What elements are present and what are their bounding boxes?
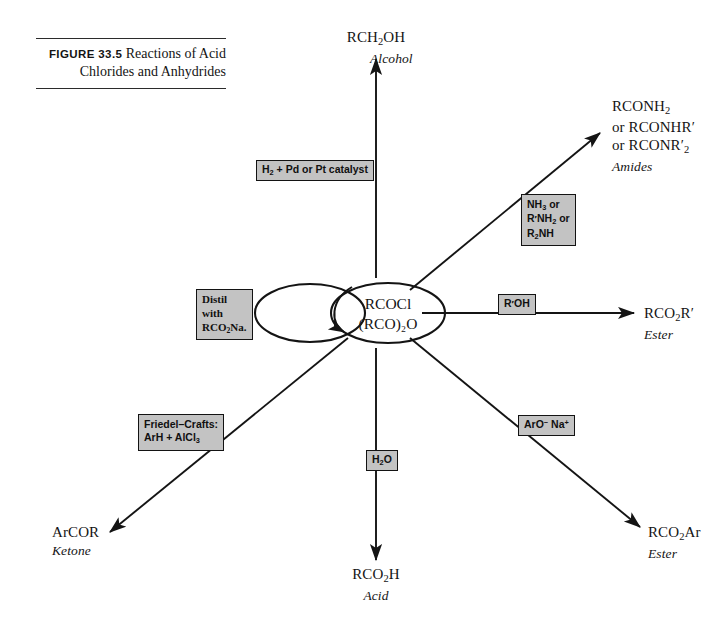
figure-label: FIGURE 33.5 [49,48,122,60]
reagent-distil-line1: Distil [202,292,247,306]
product-ketone-formula: ArCOR [52,524,99,540]
figure-canvas: FIGURE 33.5 Reactions of Acid Chlorides … [0,0,704,643]
product-amides-class: Amides [612,159,695,175]
reagent-distil-line3: RCO2Na. [202,320,247,336]
product-ester-aryl-formula: RCO2Ar [648,524,701,540]
reagent-phenoxide: ArO− Na+ [518,415,575,436]
product-amides-line1: RCONH2 [612,98,670,114]
product-ketone-class: Ketone [52,543,99,559]
reagent-hydrogenation-text: H2 + Pd or Pt catalyst [262,163,368,175]
reagent-alcoholysis-text: R′OH [504,297,530,309]
reagent-friedel-crafts-line1: Friedel–Crafts: [144,418,218,431]
reagent-distil-line2: with [202,306,247,320]
hub-formulas: RCOCl (RCO)₂O [338,294,438,334]
product-ester-alkyl-formula: RCO2R′ [644,305,694,321]
reagent-alcoholysis: R′OH [498,294,536,315]
product-ester-alkyl: RCO2R′ Ester [644,304,694,343]
product-alcohol-class: Alcohol [316,51,436,67]
product-ketone: ArCOR Ketone [52,523,99,560]
product-ester-aryl-class: Ester [648,546,701,562]
product-amides: RCONH2 or RCONHR′ or RCONR′2 Amides [612,97,695,175]
reagent-distil: Distil with RCO2Na. [196,289,253,340]
reagent-amination-line3: R2NH [527,227,570,241]
product-acid-formula: RCO2H [352,566,399,582]
figure-caption: FIGURE 33.5 Reactions of Acid Chlorides … [36,38,226,89]
reagent-hydrogenation: H2 + Pd or Pt catalyst [256,160,374,181]
product-alcohol: RCH2OH Alcohol [316,28,436,67]
product-ester-aryl: RCO2Ar Ester [648,523,701,562]
product-alcohol-formula: RCH2OH [347,29,405,45]
product-ester-alkyl-class: Ester [644,327,694,343]
hub-formula-acid-chloride: RCOCl [338,294,438,314]
reagent-amination: NH3 or R′NH2 or R2NH [521,194,576,246]
reagent-phenoxide-text: ArO− Na+ [524,418,569,430]
reagent-hydrolysis: H2O [366,450,398,471]
product-acid: RCO2H Acid [326,565,426,604]
product-amides-line2: or RCONHR′ [612,119,695,135]
reagent-friedel-crafts-line2: ArH + AlCl3 [144,431,218,445]
hub-formula-anhydride: (RCO)₂O [338,314,438,334]
reagent-amination-line2: R′NH2 or [527,212,570,226]
reagent-amination-line1: NH3 or [527,198,570,212]
product-acid-class: Acid [326,588,426,604]
reagent-hydrolysis-text: H2O [372,453,392,465]
product-amides-line3: or RCONR′2 [612,137,689,153]
reagent-friedel-crafts: Friedel–Crafts: ArH + AlCl3 [138,414,224,451]
